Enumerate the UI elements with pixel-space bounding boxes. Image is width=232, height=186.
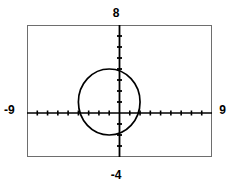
plotted-circle-curve [78,69,140,135]
calculator-graph-viewport: 8 -4 -9 9 [0,0,232,186]
x-max-label: 9 [219,104,226,116]
y-min-label: -4 [0,169,232,181]
y-max-label: 8 [0,7,232,19]
y-axis-group [117,25,122,157]
graph-plot-area [27,25,212,157]
x-min-label: -9 [4,104,15,116]
